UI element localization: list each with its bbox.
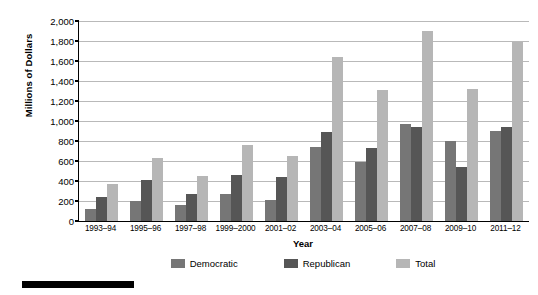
bar-republican-2011-12 bbox=[501, 127, 512, 221]
bar-democratic-2007-08 bbox=[400, 124, 411, 222]
y-axis-tick-label: 1,600 bbox=[28, 56, 79, 67]
y-axis-tick-label: 1,800 bbox=[28, 36, 79, 47]
y-axis-tick-label: 1,400 bbox=[28, 76, 79, 87]
legend-label: Democratic bbox=[190, 258, 238, 269]
bar-republican-1999-2000 bbox=[231, 175, 242, 222]
bar-group bbox=[304, 21, 349, 221]
y-axis-tick-label: 600 bbox=[28, 156, 79, 167]
bar-republican-2009-10 bbox=[456, 167, 467, 222]
bar-republican-1995-96 bbox=[141, 180, 152, 221]
bar-group bbox=[79, 21, 124, 221]
bar-democratic-1995-96 bbox=[130, 201, 141, 222]
bar-democratic-1997-98 bbox=[175, 205, 186, 222]
legend-swatch-republican bbox=[284, 259, 298, 268]
y-axis-tick-label: 1,200 bbox=[28, 96, 79, 107]
bar-republican-1993-94 bbox=[96, 197, 107, 222]
bar-total-1993-94 bbox=[107, 184, 118, 221]
x-axis-tick-label: 2011–12 bbox=[483, 224, 528, 233]
bar-democratic-2005-06 bbox=[355, 162, 366, 221]
x-axis-tick-label: 2003–04 bbox=[303, 224, 348, 233]
legend-item-republican: Republican bbox=[284, 258, 351, 269]
x-axis-tick-label: 1993–94 bbox=[78, 224, 123, 233]
bar-groups bbox=[79, 21, 529, 221]
legend-label: Total bbox=[415, 258, 435, 269]
bar-total-2007-08 bbox=[422, 31, 433, 221]
bar-democratic-2001-02 bbox=[265, 200, 276, 222]
bar-total-2011-12 bbox=[512, 42, 523, 221]
x-axis-tick-label: 2005–06 bbox=[348, 224, 393, 233]
bar-republican-2005-06 bbox=[366, 148, 377, 222]
bar-total-1997-98 bbox=[197, 176, 208, 221]
bar-group bbox=[484, 21, 529, 221]
x-axis-tick-label: 1995–96 bbox=[123, 224, 168, 233]
bar-total-2009-10 bbox=[467, 89, 478, 221]
bar-group bbox=[169, 21, 214, 221]
bar-total-1995-96 bbox=[152, 158, 163, 222]
bar-total-2005-06 bbox=[377, 90, 388, 221]
x-axis-tick-label: 2009–10 bbox=[438, 224, 483, 233]
bar-democratic-2009-10 bbox=[445, 141, 456, 221]
legend-swatch-total bbox=[396, 259, 410, 268]
bar-group bbox=[124, 21, 169, 221]
bar-republican-1997-98 bbox=[186, 194, 197, 222]
bar-total-2001-02 bbox=[287, 156, 298, 222]
bar-chart: Millions of Dollars 02004006008001,0001,… bbox=[0, 0, 538, 295]
x-axis-tick-label: 2001–02 bbox=[258, 224, 303, 233]
bar-democratic-2011-12 bbox=[490, 131, 501, 221]
x-axis-tick-label: 1997–98 bbox=[168, 224, 213, 233]
y-axis-tick-label: 2,000 bbox=[28, 16, 79, 27]
x-axis-title: Year bbox=[78, 238, 528, 249]
y-axis-tick-label: 400 bbox=[28, 176, 79, 187]
bar-group bbox=[439, 21, 484, 221]
bar-group bbox=[214, 21, 259, 221]
bar-democratic-1993-94 bbox=[85, 209, 96, 221]
legend-label: Republican bbox=[303, 258, 351, 269]
bar-republican-2007-08 bbox=[411, 127, 422, 222]
bar-democratic-1999-2000 bbox=[220, 194, 231, 222]
x-axis-tick-label: 2007–08 bbox=[393, 224, 438, 233]
chart-legend: DemocraticRepublicanTotal bbox=[78, 258, 528, 269]
footer-rule bbox=[22, 281, 134, 288]
bar-total-2003-04 bbox=[332, 57, 343, 221]
x-axis-tick-labels: 1993–941995–961997–981999–20002001–02200… bbox=[78, 224, 528, 233]
bar-group bbox=[259, 21, 304, 221]
legend-swatch-democratic bbox=[171, 259, 185, 268]
bar-republican-2003-04 bbox=[321, 132, 332, 221]
y-axis-tick-label: 0 bbox=[28, 216, 79, 227]
bar-group bbox=[394, 21, 439, 221]
bar-total-1999-2000 bbox=[242, 145, 253, 222]
bar-republican-2001-02 bbox=[276, 177, 287, 222]
y-axis-tick-label: 200 bbox=[28, 196, 79, 207]
y-axis-tick-label: 800 bbox=[28, 136, 79, 147]
y-axis-tick-label: 1,000 bbox=[28, 116, 79, 127]
legend-item-total: Total bbox=[396, 258, 435, 269]
plot-area: 02004006008001,0001,2001,4001,6001,8002,… bbox=[78, 21, 529, 222]
bar-democratic-2003-04 bbox=[310, 147, 321, 222]
x-axis-tick-label: 1999–2000 bbox=[213, 224, 258, 233]
legend-item-democratic: Democratic bbox=[171, 258, 238, 269]
bar-group bbox=[349, 21, 394, 221]
